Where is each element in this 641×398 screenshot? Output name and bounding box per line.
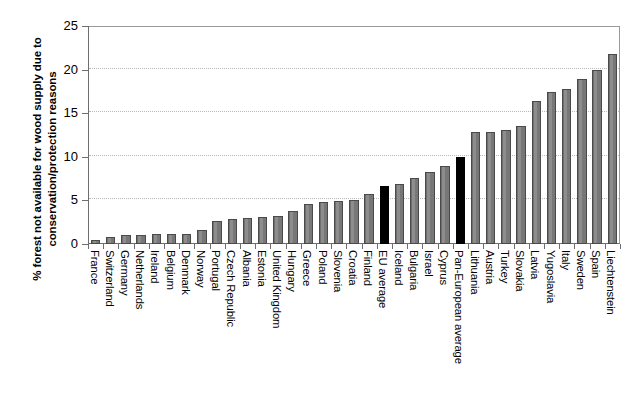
- bar[interactable]: [288, 211, 297, 244]
- bar[interactable]: [334, 201, 343, 244]
- bar[interactable]: [592, 70, 601, 244]
- x-axis-tick: [179, 244, 180, 249]
- x-axis-tick-label: Sweden: [574, 250, 587, 382]
- bar-slot: [590, 26, 605, 244]
- bar[interactable]: [258, 217, 267, 244]
- bar[interactable]: [608, 54, 617, 244]
- x-axis-tick: [255, 244, 256, 249]
- bar[interactable]: [486, 132, 495, 244]
- bar-slot: [377, 26, 392, 244]
- x-axis-tick-label: Austria: [483, 250, 496, 382]
- y-axis-tick: [82, 157, 89, 158]
- bar[interactable]: [410, 178, 419, 244]
- bar-chart: % forest not available for wood supply d…: [0, 0, 641, 398]
- bar-slot: [407, 26, 422, 244]
- x-axis-tick-label: Cyprus: [437, 250, 450, 382]
- bar-slot: [88, 26, 103, 244]
- bar-slot: [134, 26, 149, 244]
- x-axis-tick: [118, 244, 119, 249]
- x-axis-tick-label: Pan-European average: [452, 250, 465, 382]
- x-axis-tick-label: United Kingdom: [270, 250, 283, 382]
- bar[interactable]: [440, 166, 449, 244]
- x-axis-tick: [483, 244, 484, 249]
- bar-slot: [498, 26, 513, 244]
- bar[interactable]: [212, 221, 221, 244]
- bar[interactable]: [364, 194, 373, 244]
- bar[interactable]: [243, 218, 252, 244]
- bar-slot: [316, 26, 331, 244]
- x-axis-tick: [240, 244, 241, 249]
- x-axis-tick: [514, 244, 515, 249]
- bar-slot: [210, 26, 225, 244]
- bar[interactable]: [197, 230, 206, 244]
- x-axis-tick: [422, 244, 423, 249]
- x-axis-tick-label: Slovenia: [331, 250, 344, 382]
- bar[interactable]: [516, 126, 525, 244]
- x-axis-tick: [270, 244, 271, 249]
- x-axis-tick: [301, 244, 302, 249]
- bar-slot: [453, 26, 468, 244]
- bar-slot: [544, 26, 559, 244]
- bar-slot: [103, 26, 118, 244]
- x-axis-tick-label: Albania: [240, 250, 253, 382]
- x-axis-tick: [468, 244, 469, 249]
- bar[interactable]: [547, 92, 556, 244]
- x-axis-tick-label: Slovakia: [513, 250, 526, 382]
- x-axis-tick-label: Poland: [316, 250, 329, 382]
- bar[interactable]: [152, 234, 161, 244]
- bar[interactable]: [273, 216, 282, 244]
- bar[interactable]: [349, 200, 358, 244]
- x-axis-tick: [164, 244, 165, 249]
- bar-slot: [605, 26, 620, 244]
- bar-slot: [574, 26, 589, 244]
- x-axis-tick: [286, 244, 287, 249]
- bar-slot: [149, 26, 164, 244]
- bar[interactable]: [562, 89, 571, 244]
- x-axis-tick: [620, 244, 621, 249]
- bar-slot: [422, 26, 437, 244]
- bar-slot: [164, 26, 179, 244]
- x-axis-tick: [346, 244, 347, 249]
- y-axis-tick-label: 5: [18, 193, 78, 206]
- bar[interactable]: [471, 132, 480, 244]
- bar[interactable]: [228, 219, 237, 244]
- y-axis-tick: [82, 200, 89, 201]
- x-axis-tick-label: Switzerland: [103, 250, 116, 382]
- bar-slot: [270, 26, 285, 244]
- bar[interactable]: [167, 234, 176, 244]
- bar[interactable]: [395, 184, 404, 244]
- x-axis-tick-label: Germany: [118, 250, 131, 382]
- x-axis-tick-label: Estonia: [255, 250, 268, 382]
- bar[interactable]: [106, 237, 115, 244]
- x-axis-tick-label: Hungary: [285, 250, 298, 382]
- x-axis-tick-label: Iceland: [392, 250, 405, 382]
- bar[interactable]: [304, 204, 313, 244]
- x-axis-tick-label: Yugoslavia: [544, 250, 557, 382]
- bar[interactable]: [456, 157, 465, 244]
- x-axis-tick: [316, 244, 317, 249]
- bar[interactable]: [182, 234, 191, 244]
- bar[interactable]: [380, 186, 389, 244]
- bar-slot: [286, 26, 301, 244]
- bar[interactable]: [121, 235, 130, 244]
- bar[interactable]: [577, 79, 586, 244]
- x-axis-tick-label: Norway: [194, 250, 207, 382]
- x-axis-tick: [498, 244, 499, 249]
- y-axis-tick: [82, 70, 89, 71]
- bar[interactable]: [532, 101, 541, 244]
- bar-slot: [118, 26, 133, 244]
- bar-slot: [301, 26, 316, 244]
- x-axis-tick-label: Portugal: [209, 250, 222, 382]
- bar[interactable]: [425, 172, 434, 244]
- bar-slot: [255, 26, 270, 244]
- bar-slot: [483, 26, 498, 244]
- bar[interactable]: [136, 235, 145, 244]
- bar-slot: [392, 26, 407, 244]
- x-axis-tick-label: Czech Republic: [224, 250, 237, 382]
- y-axis-tick-label: 25: [18, 19, 78, 32]
- bar[interactable]: [319, 202, 328, 244]
- y-axis-tick-label: 20: [18, 63, 78, 76]
- x-axis-tick: [103, 244, 104, 249]
- x-axis-tick: [149, 244, 150, 249]
- bar[interactable]: [501, 130, 510, 244]
